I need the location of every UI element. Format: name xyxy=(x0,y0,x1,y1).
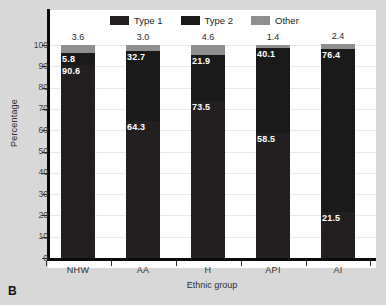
y-tick-mark xyxy=(42,173,47,174)
bar-segment-type-1[interactable] xyxy=(256,133,290,258)
x-axis-title: Ethnic group xyxy=(48,280,376,290)
y-tick-mark xyxy=(42,152,47,153)
bar-label-type-2: 5.8 xyxy=(62,55,75,64)
bar-label-type-1: 64.3 xyxy=(127,123,145,132)
bar-nhw[interactable]: 90.65.83.6 xyxy=(61,0,95,258)
bar-label-type-2: 40.1 xyxy=(257,50,275,59)
bar-label-type-1: 21.5 xyxy=(322,214,340,223)
bar-label-type-1: 90.6 xyxy=(62,67,80,76)
x-axis-spine xyxy=(47,258,376,261)
bar-aa[interactable]: 64.332.73.0 xyxy=(126,0,160,258)
bar-ai[interactable]: 21.576.42.4 xyxy=(321,0,355,258)
legend-swatch-icon xyxy=(110,16,129,25)
bar-label-other: 2.4 xyxy=(321,32,355,41)
x-tick-label-api: API xyxy=(241,265,305,275)
legend-item-type-2[interactable]: Type 2 xyxy=(181,15,234,26)
x-tick-label-ai: AI xyxy=(306,265,370,275)
y-tick-mark xyxy=(42,130,47,131)
bar-segment-type-1[interactable] xyxy=(126,121,160,258)
y-tick-mark xyxy=(42,215,47,216)
bar-segment-other[interactable] xyxy=(256,45,290,48)
x-tick-label-nhw: NHW xyxy=(46,265,110,275)
bar-segment-type-2[interactable] xyxy=(321,49,355,212)
y-tick-mark xyxy=(42,88,47,89)
y-tick-mark xyxy=(42,194,47,195)
panel-letter: B xyxy=(8,284,17,298)
figure-panel: 0102030405060708090100 Percentage 90.65.… xyxy=(0,0,386,305)
bar-segment-type-1[interactable] xyxy=(61,65,95,258)
bar-label-type-2: 32.7 xyxy=(127,53,145,62)
bar-segment-type-1[interactable] xyxy=(191,101,225,258)
bar-label-other: 1.4 xyxy=(256,33,290,42)
bar-label-other: 4.6 xyxy=(191,33,225,42)
bar-label-type-2: 21.9 xyxy=(192,57,210,66)
bar-label-other: 3.6 xyxy=(61,33,95,42)
bar-segment-type-2[interactable] xyxy=(256,48,290,133)
y-tick-mark xyxy=(42,109,47,110)
bar-label-other: 3.0 xyxy=(126,33,160,42)
y-tick-mark xyxy=(42,45,47,46)
y-tick-mark xyxy=(42,66,47,67)
bar-segment-other[interactable] xyxy=(61,45,95,53)
legend-label: Type 1 xyxy=(134,15,163,26)
bar-h[interactable]: 73.521.94.6 xyxy=(191,0,225,258)
bar-segment-other[interactable] xyxy=(126,45,160,51)
bar-label-type-1: 73.5 xyxy=(192,103,210,112)
legend-swatch-icon xyxy=(251,16,270,25)
legend-item-type-1[interactable]: Type 1 xyxy=(110,15,163,26)
bar-segment-other[interactable] xyxy=(321,44,355,49)
y-axis-title: Percentage xyxy=(9,83,19,163)
legend-item-other[interactable]: Other xyxy=(251,15,299,26)
y-tick-mark xyxy=(42,258,47,259)
x-tick-mark xyxy=(370,261,371,266)
x-tick-label-h: H xyxy=(176,265,240,275)
bar-api[interactable]: 58.540.11.4 xyxy=(256,0,290,258)
bar-label-type-1: 58.5 xyxy=(257,135,275,144)
legend: Type 1Type 2Other xyxy=(110,15,299,26)
legend-label: Type 2 xyxy=(205,15,234,26)
bar-segment-other[interactable] xyxy=(191,45,225,55)
legend-label: Other xyxy=(275,15,299,26)
x-tick-label-aa: AA xyxy=(111,265,175,275)
y-tick-mark xyxy=(42,237,47,238)
legend-swatch-icon xyxy=(181,16,200,25)
bar-label-type-2: 76.4 xyxy=(322,51,340,60)
